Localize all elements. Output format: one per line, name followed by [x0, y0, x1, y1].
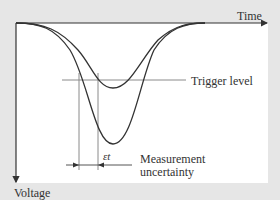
- shallow-pulse-curve: [16, 23, 205, 88]
- uncertainty-arrow-left: [73, 163, 79, 168]
- trigger-level-label: Trigger level: [191, 74, 253, 89]
- uncertainty-arrow-right: [98, 163, 104, 168]
- measurement-label-line2: uncertainty: [140, 166, 205, 179]
- epsilon-t-label: εt: [103, 150, 110, 162]
- voltage-axis-label: Voltage: [14, 186, 50, 201]
- deep-pulse-curve: [16, 23, 205, 144]
- measurement-uncertainty-label: Measurement uncertainty: [140, 153, 205, 179]
- time-axis-label: Time: [237, 9, 262, 24]
